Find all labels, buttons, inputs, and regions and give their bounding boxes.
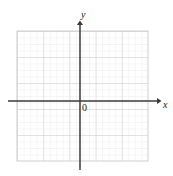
grid-major-lines — [17, 31, 148, 161]
x-axis-arrowhead — [157, 98, 162, 104]
y-axis-label: y — [81, 10, 85, 20]
x-axis-label: x — [163, 100, 167, 110]
y-axis-arrowhead — [77, 21, 83, 26]
coordinate-plane-figure: y x 0 — [0, 0, 173, 176]
origin-label: 0 — [82, 103, 87, 113]
grid-group — [17, 31, 148, 161]
coordinate-plane-svg — [0, 0, 173, 176]
